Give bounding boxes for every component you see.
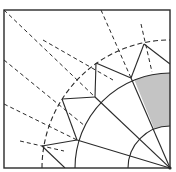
dashed-crease — [43, 40, 113, 80]
solid-crease — [95, 63, 96, 97]
solid-crease — [62, 99, 77, 140]
solid-crease — [96, 63, 131, 78]
solid-crease — [131, 44, 144, 78]
corner-point — [168, 166, 171, 169]
solid-crease — [62, 97, 95, 99]
solid-crease — [42, 140, 77, 146]
solid-crease — [42, 146, 65, 168]
dashed-crease — [20, 141, 64, 151]
shaded-region — [134, 73, 170, 129]
crease-pattern-diagram — [0, 0, 176, 172]
shaded-sector — [134, 73, 170, 129]
solid-crease — [77, 140, 170, 168]
dashed-crease — [4, 60, 85, 126]
dashed-crease — [4, 10, 95, 97]
dashed-crease — [101, 10, 131, 78]
